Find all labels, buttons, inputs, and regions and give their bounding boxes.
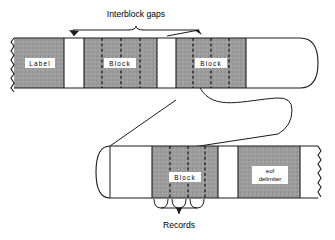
eof-delimiter-line-2: delimiter [259, 176, 282, 182]
records-brace-1 [154, 199, 168, 208]
records-annotation: Records [154, 199, 204, 230]
block-2-caption-text: Block [200, 60, 222, 67]
fold-edge-upper [160, 88, 292, 152]
records-label: Records [163, 220, 195, 230]
tape-diagram: Label Block Block Interblock gaps [0, 0, 335, 240]
interblock-gaps-right-stem [167, 30, 199, 36]
block-1-caption-box: Block [104, 58, 136, 68]
interblock-gaps-label: Interblock gaps [107, 9, 165, 19]
eof-delimiter-line-1: eof [266, 168, 275, 174]
interblock-gaps-left-arrowhead [69, 30, 79, 36]
upper-tape-strip: Label Block Block [10, 36, 322, 92]
upper-tape-torn-left-edge [11, 38, 14, 92]
lower-block-caption-text: Block [174, 174, 196, 181]
label-caption-text: Label [29, 60, 51, 67]
interblock-gaps-annotation: Interblock gaps [69, 9, 202, 36]
records-brace-2 [172, 199, 186, 208]
lower-tape-strip: Block eof delimiter [94, 144, 324, 200]
block-2-caption-box: Block [195, 58, 227, 68]
records-brace-3 [190, 199, 204, 208]
tape-fold-connector [110, 88, 292, 152]
block-1-caption-text: Block [109, 60, 131, 67]
lower-block-caption-box: Block [169, 172, 201, 182]
lower-tape-torn-right-edge [318, 146, 321, 197]
fold-edge-lower [110, 100, 176, 146]
figure-canvas: Label Block Block Interblock gaps [0, 0, 335, 240]
eof-delimiter-caption-box: eof delimiter [252, 166, 288, 184]
records-arrowhead [176, 208, 182, 214]
label-caption-box: Label [25, 58, 55, 68]
interblock-gaps-brace [73, 26, 199, 30]
